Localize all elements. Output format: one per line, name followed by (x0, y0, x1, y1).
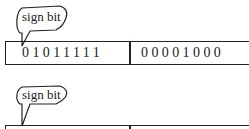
callout-label: sign bit (22, 87, 61, 103)
callout-label: sign bit (22, 9, 61, 25)
high-byte-bits: 01011111 (22, 42, 103, 64)
sign-bit-callout: sign bit (0, 0, 80, 45)
register-16bit (5, 125, 249, 129)
sign-bit-callout: sign bit (0, 84, 80, 129)
byte-divider (129, 41, 131, 65)
byte-divider (129, 125, 131, 129)
register-16bit: 01011111 00001000 (5, 41, 249, 65)
low-byte-bits: 00001000 (141, 42, 224, 64)
